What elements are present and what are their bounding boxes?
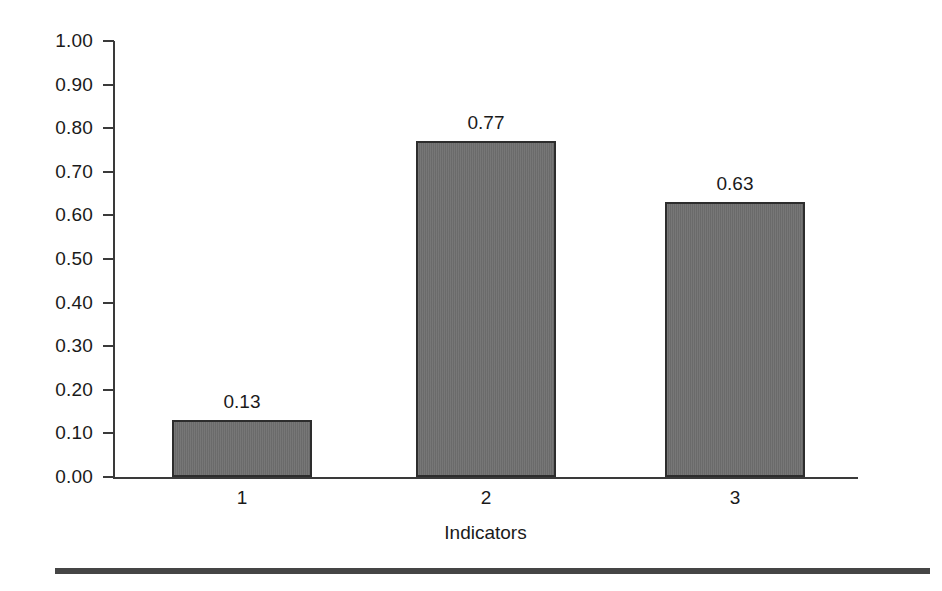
y-axis-tick-label: 0.30 xyxy=(27,336,93,355)
plot-area: 0.130.770.63 xyxy=(113,41,858,477)
y-axis-tick-label-text: 0.60 xyxy=(27,205,93,224)
bar-value-label: 0.77 xyxy=(416,113,556,132)
y-axis-tick-label-text: 0.90 xyxy=(27,75,93,94)
y-axis-tick-label-text: 0.80 xyxy=(27,118,93,137)
x-axis-tick-label: 3 xyxy=(665,487,805,509)
bar xyxy=(416,141,556,477)
bar xyxy=(172,420,312,477)
y-axis-tick-label-text: 1.00 xyxy=(27,31,93,50)
x-axis-tick-label: 2 xyxy=(416,487,556,509)
y-axis-tick-label: 0.60 xyxy=(27,205,93,224)
y-axis-tick-label: 0.50 xyxy=(27,249,93,268)
y-axis-tick-label-text: 0.20 xyxy=(27,380,93,399)
x-axis-line xyxy=(113,477,858,479)
y-axis-tick-label: 0.90 xyxy=(27,75,93,94)
y-axis-tick-label: 0.10 xyxy=(27,423,93,442)
bar-chart-figure: 1.000.900.800.700.600.500.400.300.200.10… xyxy=(0,0,942,591)
y-axis-tick-label-text: 0.70 xyxy=(27,162,93,181)
y-axis-tick-label-text: 0.40 xyxy=(27,293,93,312)
y-axis-tick-label: 0.20 xyxy=(27,380,93,399)
bar-value-label: 0.13 xyxy=(172,392,312,411)
y-axis-tick-label: 0.00 xyxy=(27,467,93,486)
y-axis-tick-label-text: 0.10 xyxy=(27,423,93,442)
y-axis-tick-label-text: 0.30 xyxy=(27,336,93,355)
x-axis-title: Indicators xyxy=(113,522,858,544)
bottom-rule xyxy=(55,568,930,574)
y-axis-tick-label-text: 0.50 xyxy=(27,249,93,268)
y-axis-tick-label: 0.70 xyxy=(27,162,93,181)
y-axis-tick-label: 0.80 xyxy=(27,118,93,137)
y-axis-tick-label: 0.40 xyxy=(27,293,93,312)
y-axis-tick-label-text: 0.00 xyxy=(27,467,93,486)
bar-value-label: 0.63 xyxy=(665,174,805,193)
x-axis-tick-label: 1 xyxy=(172,487,312,509)
bar xyxy=(665,202,805,477)
y-axis-tick-label: 1.00 xyxy=(27,31,93,50)
